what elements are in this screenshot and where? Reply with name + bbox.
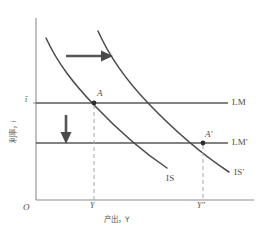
point-a-prime-label: A' xyxy=(205,130,212,139)
is-prime-curve-label: IS' xyxy=(234,168,244,177)
y-tick-label-ibar: ī xyxy=(25,96,27,104)
origin-label: O xyxy=(23,203,30,212)
is-lm-plot-canvas xyxy=(0,0,268,237)
is-curve-label: IS xyxy=(166,174,174,183)
y-axis-title: 利率，i xyxy=(10,108,18,156)
lm-prime-curve-label: LM' xyxy=(232,138,248,147)
point-a-marker xyxy=(92,101,97,106)
x-axis-title: 产出，Y xyxy=(104,216,130,224)
shift-right-arrow-icon xyxy=(66,51,113,62)
lm-curve-label: LM xyxy=(232,98,246,107)
point-a-prime-marker xyxy=(201,141,206,146)
x-tick-label-y-prime: Y'' xyxy=(197,202,205,210)
point-a-label: A xyxy=(97,89,103,98)
is-prime-curve-path xyxy=(98,31,229,172)
is-lm-figure: 利率，i 产出，Y O ī Y Y'' A A' IS IS' LM LM' xyxy=(0,0,268,237)
x-tick-label-y: Y xyxy=(90,202,94,210)
shift-down-arrow-icon xyxy=(61,115,72,144)
